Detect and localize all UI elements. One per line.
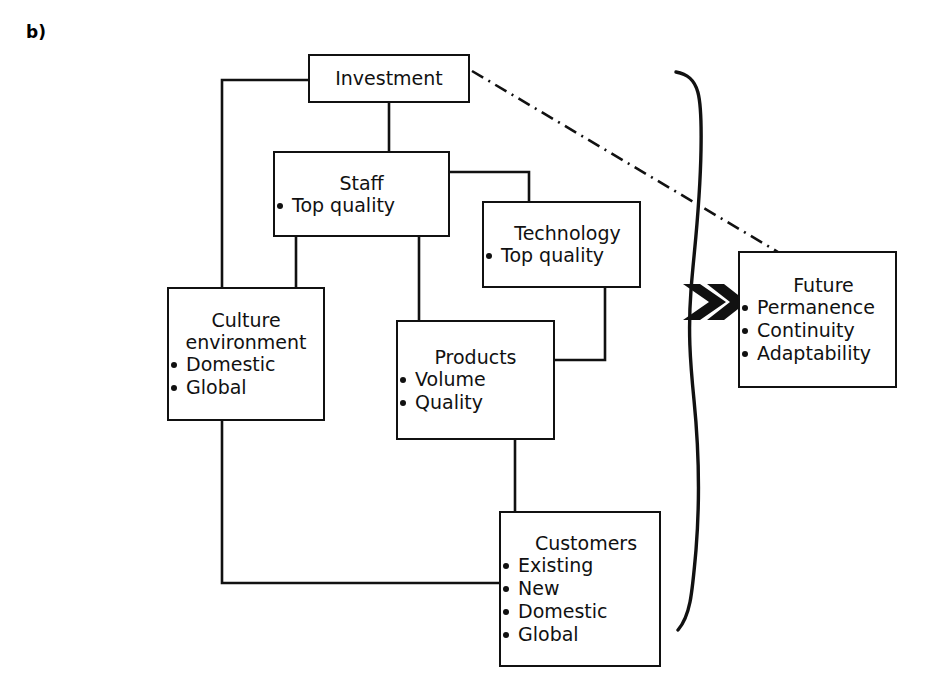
list-item: Adaptability: [740, 342, 895, 365]
node-technology-title: Technology: [484, 222, 639, 244]
node-culture-environment[interactable]: Culture environment Domestic Global: [167, 287, 325, 421]
list-item: Top quality: [484, 244, 639, 267]
node-future[interactable]: Future Permanence Continuity Adaptabilit…: [738, 251, 897, 388]
list-item: Domestic: [501, 600, 659, 623]
node-culture-environment-bullets: Domestic Global: [169, 353, 323, 399]
brace-curve: [676, 72, 701, 630]
node-future-title: Future: [740, 274, 895, 296]
node-culture-environment-title: Culture environment: [169, 309, 323, 353]
list-item: Global: [501, 623, 659, 646]
node-customers[interactable]: Customers Existing New Domestic Global: [499, 511, 661, 667]
list-item: Existing: [501, 554, 659, 577]
node-future-bullets: Permanence Continuity Adaptability: [740, 296, 895, 364]
node-staff-bullets: Top quality: [275, 194, 448, 217]
list-item: Top quality: [275, 194, 448, 217]
list-item: Volume: [398, 368, 553, 391]
list-item: Permanence: [740, 296, 895, 319]
list-item: Quality: [398, 391, 553, 414]
node-investment-title: Investment: [310, 67, 468, 89]
list-item: Domestic: [169, 353, 323, 376]
node-customers-bullets: Existing New Domestic Global: [501, 554, 659, 645]
list-item: New: [501, 577, 659, 600]
connector-technology-products: [555, 288, 605, 360]
node-customers-title: Customers: [501, 532, 659, 554]
list-item: Continuity: [740, 319, 895, 342]
panel-label-b: b): [26, 22, 46, 42]
node-technology[interactable]: Technology Top quality: [482, 201, 641, 288]
connector-culture-customers: [222, 421, 499, 583]
node-staff-title: Staff: [275, 172, 448, 194]
figure-canvas: b): [0, 0, 925, 698]
list-item: Global: [169, 376, 323, 399]
node-products[interactable]: Products Volume Quality: [396, 320, 555, 440]
node-technology-bullets: Top quality: [484, 244, 639, 267]
node-investment[interactable]: Investment: [308, 54, 470, 103]
node-products-title: Products: [398, 346, 553, 368]
connector-staff-technology: [450, 172, 529, 201]
node-staff[interactable]: Staff Top quality: [273, 151, 450, 237]
node-products-bullets: Volume Quality: [398, 368, 553, 414]
